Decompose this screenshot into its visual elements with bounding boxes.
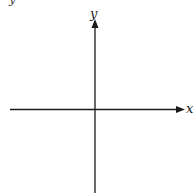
- coordinate-axes-diagram: y y x: [0, 0, 195, 195]
- axes-svg: [0, 0, 195, 195]
- x-axis-label: x: [186, 102, 193, 115]
- x-axis: [10, 106, 185, 113]
- clipped-text-fragment: y: [9, 0, 16, 6]
- y-axis: [92, 19, 99, 193]
- y-axis-label: y: [90, 7, 97, 20]
- x-axis-arrow-icon: [176, 106, 185, 113]
